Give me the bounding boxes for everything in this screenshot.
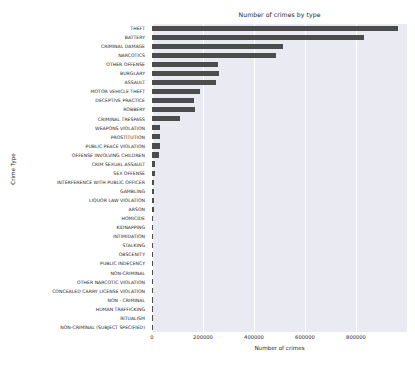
y-tick-label: NON - CRIMINAL — [107, 298, 145, 303]
bar-row — [152, 287, 407, 296]
bar-row — [152, 115, 407, 124]
bar — [152, 180, 154, 185]
bar-row — [152, 24, 407, 33]
bar-row — [152, 232, 407, 241]
bar-row — [152, 169, 407, 178]
y-tick-label: OTHER NARCOTIC VIOLATION — [77, 280, 145, 285]
bar-row — [152, 96, 407, 105]
y-tick-label: HUMAN TRAFFICKING — [96, 307, 145, 312]
y-axis-label: Crime Type — [10, 139, 16, 199]
bar-row — [152, 151, 407, 160]
bar-row — [152, 223, 407, 232]
bar — [152, 152, 159, 157]
bar — [152, 161, 155, 166]
y-tick-label: ASSAULT — [125, 80, 145, 85]
bar — [152, 44, 283, 49]
y-tick-label: THEFT — [130, 26, 145, 31]
bar-row — [152, 187, 407, 196]
bar — [152, 53, 276, 58]
y-tick-label: STALKING — [122, 243, 145, 248]
bar — [152, 98, 194, 103]
bar-row — [152, 142, 407, 151]
y-tick-label: BATTERY — [125, 35, 145, 40]
y-tick-label: INTIMIDATION — [113, 234, 145, 239]
bar-row — [152, 323, 407, 332]
bar — [152, 71, 219, 76]
bar-row — [152, 60, 407, 69]
bar-row — [152, 214, 407, 223]
bar — [152, 80, 216, 85]
bar-row — [152, 160, 407, 169]
y-tick-label: BURGLARY — [120, 71, 145, 76]
y-tick-label: OBSCENITY — [119, 252, 145, 257]
bar — [152, 216, 153, 221]
bar-row — [152, 87, 407, 96]
x-tick-label: 800000 — [346, 334, 366, 340]
bar-row — [152, 314, 407, 323]
bar-row — [152, 33, 407, 42]
y-tick-label: ARSON — [129, 207, 145, 212]
bar — [152, 89, 200, 94]
bar — [152, 234, 153, 239]
plot-area — [152, 24, 407, 332]
bar — [152, 225, 153, 230]
y-tick-label: NON-CRIMINAL (SUBJECT SPECIFIED) — [60, 325, 145, 330]
bar-row — [152, 124, 407, 133]
y-tick-label: KIDNAPPING — [116, 225, 145, 230]
y-tick-label: CRIMINAL TRESPASS — [98, 117, 145, 122]
bar-row — [152, 69, 407, 78]
y-tick-label: CRIM SEXUAL ASSAULT — [92, 162, 145, 167]
bar-row — [152, 241, 407, 250]
bar-row — [152, 106, 407, 115]
y-tick-label: SEX OFFENSE — [113, 171, 145, 176]
bar-row — [152, 269, 407, 278]
bar — [152, 198, 154, 203]
bar — [152, 207, 154, 212]
bar — [152, 189, 154, 194]
x-tick-label: 200000 — [193, 334, 213, 340]
bar-row — [152, 250, 407, 259]
bar-row — [152, 196, 407, 205]
y-tick-label: NON-CRIMINAL — [110, 271, 145, 276]
bar — [152, 243, 153, 248]
x-tick-label: 600000 — [295, 334, 315, 340]
chart-figure: Number of crimes by type THEFTBATTERYCRI… — [0, 0, 415, 371]
bar-row — [152, 278, 407, 287]
bar-row — [152, 296, 407, 305]
chart-title: Number of crimes by type — [152, 11, 407, 18]
y-axis-tick-labels: THEFTBATTERYCRIMINAL DAMAGENARCOTICSOTHE… — [0, 24, 149, 332]
y-tick-label: OFFENSE INVOLVING CHILDREN — [72, 153, 145, 158]
bar-row — [152, 78, 407, 87]
y-tick-label: CONCEALED CARRY LICENSE VIOLATION — [52, 289, 145, 294]
x-axis-label: Number of crimes — [152, 345, 407, 351]
y-tick-label: CRIMINAL DAMAGE — [101, 44, 145, 49]
bar-row — [152, 260, 407, 269]
y-tick-label: OTHER OFFENSE — [106, 62, 145, 67]
bar — [152, 62, 218, 67]
y-tick-label: LIQUOR LAW VIOLATION — [89, 198, 145, 203]
y-tick-label: MOTOR VEHICLE THEFT — [90, 89, 145, 94]
bar-row — [152, 42, 407, 51]
bar — [152, 134, 160, 139]
x-tick-label: 400000 — [244, 334, 264, 340]
bar — [152, 35, 364, 40]
bar — [152, 125, 160, 130]
y-tick-label: ROBBERY — [123, 107, 145, 112]
y-tick-label: GAMBLING — [120, 189, 145, 194]
y-tick-label: NARCOTICS — [118, 53, 145, 58]
y-tick-label: RITUALISM — [120, 316, 145, 321]
bar-row — [152, 305, 407, 314]
bar-row — [152, 51, 407, 60]
bar — [152, 26, 398, 31]
bar — [152, 116, 180, 121]
y-tick-label: PUBLIC INDECENCY — [100, 261, 145, 266]
y-tick-label: INTERFERENCE WITH PUBLIC OFFICER — [57, 180, 145, 185]
bar — [152, 107, 195, 112]
y-tick-label: PROSTITUTION — [111, 135, 145, 140]
bar-row — [152, 205, 407, 214]
x-tick-label: 0 — [150, 334, 153, 340]
bar — [152, 171, 155, 176]
x-axis-tick-labels: 0200000400000600000800000 — [0, 334, 415, 344]
bar — [152, 143, 160, 148]
y-tick-label: WEAPONS VIOLATION — [95, 126, 145, 131]
